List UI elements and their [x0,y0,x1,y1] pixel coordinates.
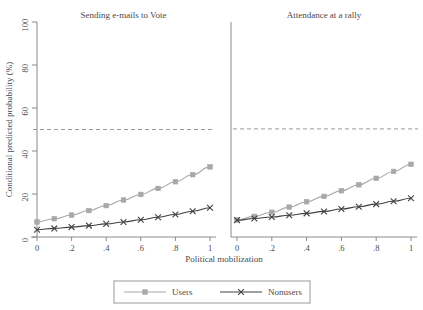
y-tick-label: 0 [20,238,30,242]
marker-square [374,176,379,181]
y-tick-label: 20 [20,193,30,202]
marker-square [208,165,213,170]
x-tick-label: 1 [208,243,212,253]
marker-square [52,216,57,221]
series-line-users [37,167,210,222]
x-tick-label: .2 [269,243,275,253]
chart-figure: 020406080100Conditional predicted probab… [0,0,423,310]
marker-square [69,213,74,218]
marker-square [339,188,344,193]
y-axis-title: Conditional predicted probability (%) [4,62,14,198]
panel-chart: 020406080100Conditional predicted probab… [0,0,423,310]
marker-square [121,198,126,203]
x-tick-label: 1 [409,243,413,253]
marker-square [304,199,309,204]
series-line-nonusers [37,208,210,230]
legend-label: Users [172,287,193,297]
marker-square [287,205,292,210]
x-tick-label: .8 [373,243,379,253]
x-axis-title: Political mobilization [185,254,263,264]
marker-square [173,179,178,184]
marker-square [156,186,161,191]
marker-square [35,220,40,225]
marker-square [270,210,275,215]
legend-marker-square [143,290,148,295]
x-tick-label: .6 [338,243,344,253]
marker-square [409,162,414,167]
x-tick-label: .4 [303,243,310,253]
x-tick-label: .6 [138,243,144,253]
y-tick-label: 100 [20,19,30,32]
marker-square [322,194,327,199]
panel-title-1: Attendance at a rally [287,10,362,20]
x-tick-label: .2 [68,243,74,253]
legend-label: Nonusers [268,287,302,297]
marker-square [391,169,396,174]
series-line-nonusers [237,198,411,220]
y-tick-label: 40 [20,150,30,159]
x-tick-label: 0 [235,243,239,253]
x-tick-label: .4 [103,243,110,253]
marker-square [139,192,144,197]
marker-square [87,208,92,213]
marker-square [104,203,109,208]
x-tick-label: .8 [172,243,178,253]
panel-title-0: Sending e-mails to Vote [81,10,167,20]
marker-square [357,182,362,187]
marker-square [190,172,195,177]
x-tick-label: 0 [35,243,39,253]
y-tick-label: 60 [20,107,30,116]
y-tick-label: 80 [20,64,30,73]
